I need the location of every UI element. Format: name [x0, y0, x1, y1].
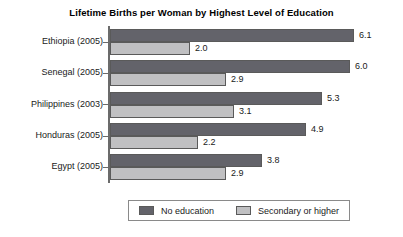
category-label: Philippines (2003) — [1, 99, 103, 109]
chart-legend: No educationSecondary or higher — [128, 200, 350, 221]
bar-value-label: 4.9 — [311, 123, 324, 136]
bar-secondary-or-higher[interactable] — [110, 42, 190, 55]
legend-swatch-icon — [139, 206, 154, 215]
legend-swatch-icon — [236, 206, 251, 215]
legend-item[interactable]: Secondary or higher — [236, 206, 339, 216]
bar-value-label: 6.0 — [355, 60, 368, 73]
bar-no-education[interactable] — [110, 60, 350, 73]
category-axis-labels: Ethiopia (2005)Senegal (2005)Philippines… — [0, 26, 103, 183]
legend-label: Secondary or higher — [258, 206, 339, 216]
axis-tick — [103, 73, 108, 74]
category-label: Ethiopia (2005) — [1, 36, 103, 46]
legend-label: No education — [161, 206, 214, 216]
bar-no-education[interactable] — [110, 29, 354, 42]
bar-value-label: 5.3 — [327, 92, 340, 105]
chart-container: Lifetime Births per Woman by Highest Lev… — [0, 0, 403, 237]
category-label: Honduras (2005) — [1, 130, 103, 140]
category-label: Senegal (2005) — [1, 67, 103, 77]
bar-secondary-or-higher[interactable] — [110, 73, 226, 86]
bar-secondary-or-higher[interactable] — [110, 167, 226, 180]
chart-title: Lifetime Births per Woman by Highest Lev… — [0, 7, 403, 18]
bar-value-label: 3.1 — [239, 105, 252, 118]
bar-value-label: 2.2 — [203, 136, 216, 149]
bar-value-label: 2.0 — [195, 42, 208, 55]
bar-no-education[interactable] — [110, 154, 262, 167]
bar-value-label: 6.1 — [359, 29, 372, 42]
bar-no-education[interactable] — [110, 92, 322, 105]
legend-item[interactable]: No education — [139, 206, 214, 216]
plot-area: 6.12.06.02.95.33.14.92.23.82.9 — [108, 26, 400, 183]
category-label: Egypt (2005) — [1, 161, 103, 171]
axis-tick — [103, 136, 108, 137]
bar-no-education[interactable] — [110, 123, 306, 136]
axis-tick — [103, 42, 108, 43]
axis-tick — [103, 104, 108, 105]
bar-secondary-or-higher[interactable] — [110, 105, 234, 118]
bar-value-label: 2.9 — [231, 73, 244, 86]
bar-value-label: 2.9 — [231, 167, 244, 180]
axis-tick — [103, 167, 108, 168]
bar-secondary-or-higher[interactable] — [110, 136, 198, 149]
bar-value-label: 3.8 — [267, 154, 280, 167]
